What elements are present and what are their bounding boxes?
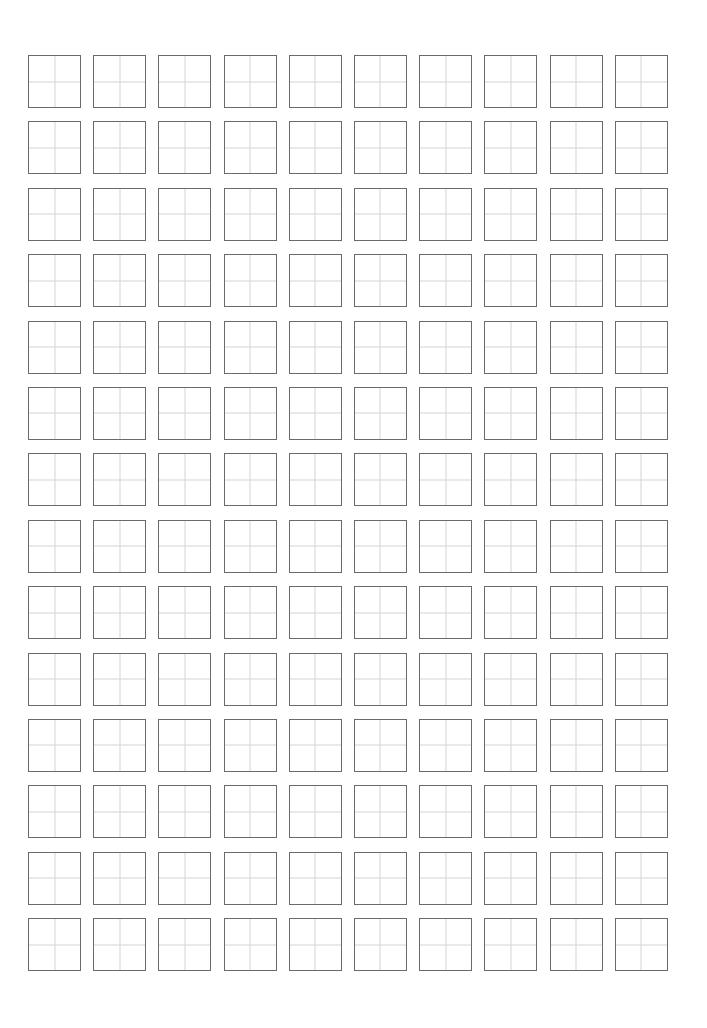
horizontal-guide-line	[94, 280, 145, 281]
horizontal-guide-line	[290, 347, 341, 348]
horizontal-guide-line	[94, 546, 145, 547]
grid-cell	[224, 453, 277, 506]
grid-cell	[224, 586, 277, 639]
horizontal-guide-line	[551, 944, 602, 945]
grid-cell	[224, 121, 277, 174]
grid-cell	[158, 387, 211, 440]
grid-cell	[224, 254, 277, 307]
grid-cell	[354, 55, 407, 108]
grid-cell	[28, 387, 81, 440]
grid-cell	[354, 586, 407, 639]
horizontal-guide-line	[485, 811, 536, 812]
grid-cell	[484, 121, 537, 174]
horizontal-guide-line	[29, 679, 80, 680]
horizontal-guide-line	[290, 147, 341, 148]
grid-cell	[93, 188, 146, 241]
horizontal-guide-line	[29, 745, 80, 746]
grid-cell	[419, 387, 472, 440]
grid-cell	[289, 321, 342, 374]
horizontal-guide-line	[290, 280, 341, 281]
horizontal-guide-line	[159, 214, 210, 215]
grid-cell	[93, 586, 146, 639]
grid-cell	[419, 653, 472, 706]
horizontal-guide-line	[225, 147, 276, 148]
horizontal-guide-line	[616, 745, 667, 746]
horizontal-guide-line	[551, 413, 602, 414]
grid-cell	[289, 55, 342, 108]
grid-cell	[93, 254, 146, 307]
grid-cell	[224, 719, 277, 772]
horizontal-guide-line	[225, 811, 276, 812]
horizontal-guide-line	[616, 944, 667, 945]
grid-cell	[550, 719, 603, 772]
horizontal-guide-line	[290, 214, 341, 215]
grid-cell	[615, 586, 668, 639]
horizontal-guide-line	[355, 546, 406, 547]
grid-cell	[419, 586, 472, 639]
grid-cell	[615, 653, 668, 706]
grid-cell	[615, 387, 668, 440]
horizontal-guide-line	[485, 878, 536, 879]
horizontal-guide-line	[420, 147, 471, 148]
grid-cell	[289, 719, 342, 772]
horizontal-guide-line	[225, 878, 276, 879]
grid-cell	[550, 653, 603, 706]
horizontal-guide-line	[355, 811, 406, 812]
grid-cell	[93, 852, 146, 905]
horizontal-guide-line	[355, 214, 406, 215]
grid-cell	[158, 520, 211, 573]
horizontal-guide-line	[225, 413, 276, 414]
horizontal-guide-line	[616, 214, 667, 215]
grid-cell	[550, 785, 603, 838]
grid-cell	[224, 520, 277, 573]
horizontal-guide-line	[420, 878, 471, 879]
grid-cell	[550, 387, 603, 440]
horizontal-guide-line	[290, 546, 341, 547]
horizontal-guide-line	[355, 280, 406, 281]
horizontal-guide-line	[551, 479, 602, 480]
horizontal-guide-line	[420, 81, 471, 82]
grid-cell	[158, 586, 211, 639]
horizontal-guide-line	[94, 81, 145, 82]
horizontal-guide-line	[420, 347, 471, 348]
horizontal-guide-line	[225, 81, 276, 82]
grid-cell	[289, 121, 342, 174]
grid-cell	[615, 520, 668, 573]
grid-cell	[615, 719, 668, 772]
horizontal-guide-line	[29, 214, 80, 215]
grid-cell	[158, 719, 211, 772]
horizontal-guide-line	[290, 81, 341, 82]
grid-cell	[419, 254, 472, 307]
grid-cell	[158, 653, 211, 706]
horizontal-guide-line	[94, 878, 145, 879]
horizontal-guide-line	[159, 878, 210, 879]
grid-cell	[28, 453, 81, 506]
horizontal-guide-line	[29, 811, 80, 812]
horizontal-guide-line	[159, 811, 210, 812]
horizontal-guide-line	[616, 612, 667, 613]
grid-cell	[419, 121, 472, 174]
grid-cell	[28, 121, 81, 174]
grid-cell	[484, 852, 537, 905]
grid-cell	[224, 852, 277, 905]
horizontal-guide-line	[616, 878, 667, 879]
horizontal-guide-line	[420, 679, 471, 680]
horizontal-guide-line	[290, 413, 341, 414]
horizontal-guide-line	[94, 147, 145, 148]
grid-cell	[354, 918, 407, 971]
horizontal-guide-line	[290, 878, 341, 879]
horizontal-guide-line	[225, 679, 276, 680]
grid-cell	[93, 321, 146, 374]
grid-cell	[289, 852, 342, 905]
horizontal-guide-line	[94, 811, 145, 812]
horizontal-guide-line	[616, 546, 667, 547]
grid-cell	[615, 852, 668, 905]
grid-cell	[354, 719, 407, 772]
horizontal-guide-line	[159, 479, 210, 480]
grid-cell	[484, 918, 537, 971]
horizontal-guide-line	[485, 546, 536, 547]
grid-cell	[550, 321, 603, 374]
grid-cell	[93, 918, 146, 971]
horizontal-guide-line	[616, 81, 667, 82]
grid-cell	[419, 188, 472, 241]
